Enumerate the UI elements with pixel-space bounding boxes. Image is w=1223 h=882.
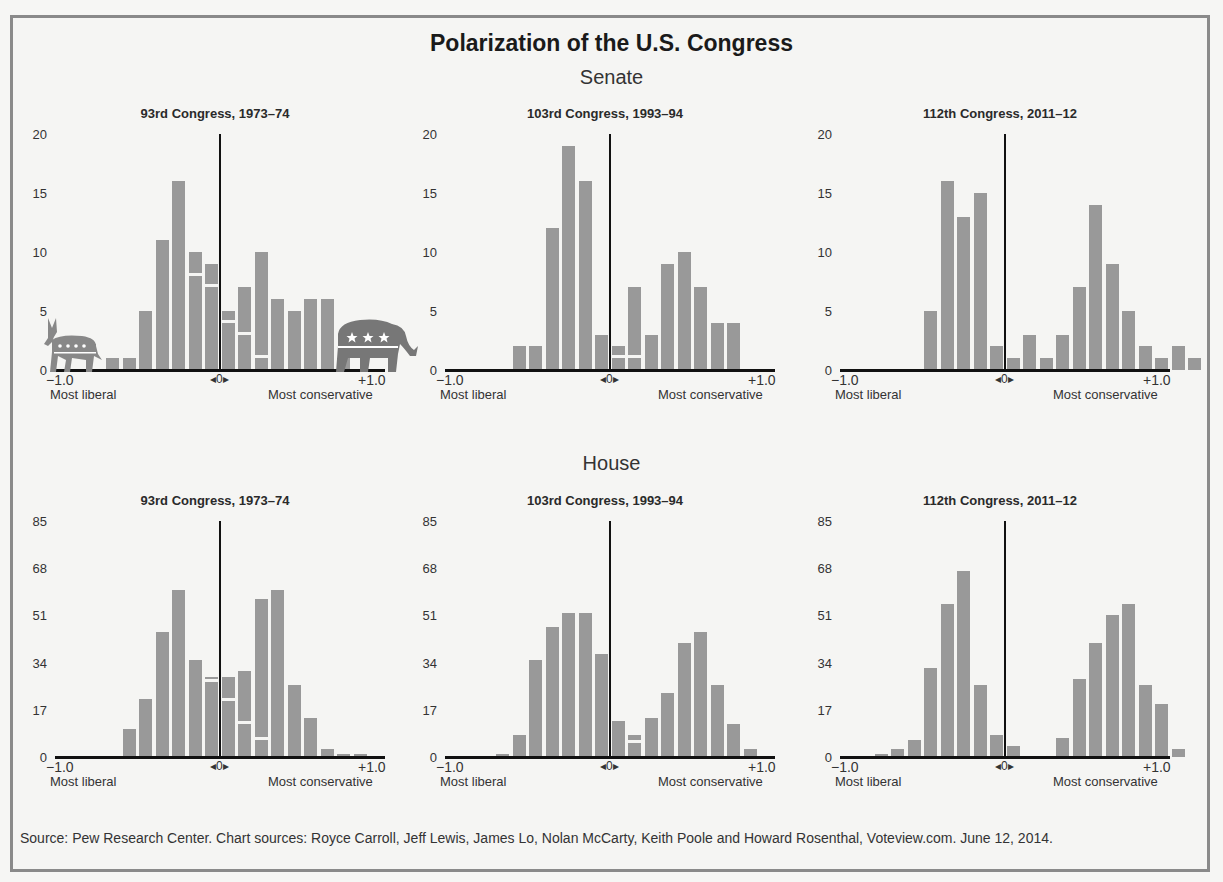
bar-segment-democrat — [255, 740, 268, 757]
histogram-bar — [288, 685, 301, 757]
bar-segment-republican — [1155, 704, 1168, 757]
histogram-bar — [189, 252, 202, 370]
histogram-bar — [957, 571, 970, 757]
histogram-bar — [645, 718, 658, 757]
bar-segment-republican — [1172, 346, 1185, 370]
histogram-bar — [255, 252, 268, 370]
bar-segment-democrat — [546, 228, 559, 370]
bar-segment-republican — [255, 252, 268, 355]
bar-segment-democrat — [123, 729, 136, 757]
bar-segment-democrat — [974, 685, 987, 757]
bar-segment-democrat — [238, 724, 251, 757]
histogram-bar — [579, 613, 592, 757]
bar-segment-democrat — [628, 743, 641, 757]
bar-segment-republican — [1122, 604, 1135, 757]
bar-segment-democrat — [189, 660, 202, 757]
x-tick-max: +1.0 — [358, 372, 386, 388]
x-label-liberal: Most liberal — [835, 774, 901, 789]
bar-segment-democrat — [595, 654, 608, 757]
y-tick-label: 0 — [415, 750, 437, 765]
bar-segment-republican — [711, 685, 724, 757]
histogram-bar — [1073, 287, 1086, 370]
panel-house-4: 103rd Congress, 1993–9401734516885−1.0◂0… — [420, 493, 790, 793]
histogram-bar — [990, 735, 1003, 757]
bar-segment-democrat — [139, 311, 152, 370]
bar-segment-democrat — [941, 604, 954, 757]
y-tick-label: 10 — [415, 245, 437, 260]
bar-segment-republican — [1106, 615, 1119, 757]
histogram-bar — [271, 299, 284, 370]
bar-segment-republican — [727, 724, 740, 757]
histogram-bar — [1172, 749, 1185, 757]
panel-title: 103rd Congress, 1993–94 — [420, 493, 790, 508]
panel-senate-1: 103rd Congress, 1993–9405101520−1.0◂0▸+1… — [420, 106, 790, 406]
histogram-bar — [612, 346, 625, 370]
x-tick-max: +1.0 — [748, 372, 776, 388]
y-tick-label: 51 — [810, 608, 832, 623]
bar-segment-democrat — [579, 613, 592, 757]
y-tick-label: 20 — [415, 127, 437, 142]
y-tick-label: 51 — [415, 608, 437, 623]
x-label-liberal: Most liberal — [50, 774, 116, 789]
bar-segment-republican — [1122, 311, 1135, 370]
histogram-bar — [189, 660, 202, 757]
bar-segment-republican — [205, 677, 218, 680]
bar-segment-republican — [205, 264, 218, 285]
bar-segment-democrat — [222, 323, 235, 370]
y-tick-label: 17 — [810, 702, 832, 717]
histogram-bar — [628, 287, 641, 370]
bar-segment-republican — [222, 677, 235, 699]
bar-segment-republican — [271, 590, 284, 757]
bar-segment-republican — [222, 311, 235, 320]
histogram-bar — [957, 217, 970, 370]
histogram-bar — [139, 311, 152, 370]
histogram-bar — [1106, 615, 1119, 757]
histogram-bar — [941, 181, 954, 370]
histogram-bar — [1188, 358, 1201, 370]
histogram-bar — [1056, 738, 1069, 757]
histogram-bar — [156, 632, 169, 757]
plot-area: 05101520 — [840, 134, 1170, 370]
histogram-bar — [546, 228, 559, 370]
bar-segment-democrat — [172, 181, 185, 370]
bar-segment-republican — [304, 718, 317, 757]
bar-segment-republican — [288, 685, 301, 757]
histogram-bar — [172, 590, 185, 757]
x-tick-center: ◂0▸ — [600, 372, 619, 386]
x-tick-center: ◂0▸ — [995, 372, 1014, 386]
panel-title: 112th Congress, 2011–12 — [815, 493, 1185, 508]
x-tick-min: −1.0 — [436, 759, 464, 775]
histogram-bar — [529, 660, 542, 757]
histogram-bar — [595, 335, 608, 370]
bar-segment-democrat — [513, 346, 526, 370]
y-tick-label: 5 — [810, 304, 832, 319]
y-tick-label: 0 — [810, 750, 832, 765]
x-tick-min: −1.0 — [831, 759, 859, 775]
histogram-bar — [661, 264, 674, 370]
bar-segment-republican — [238, 671, 251, 721]
histogram-bar — [172, 181, 185, 370]
x-label-liberal: Most liberal — [835, 387, 901, 402]
bar-segment-republican — [1056, 335, 1069, 370]
bar-segment-democrat — [513, 735, 526, 757]
elephant-icon — [330, 316, 420, 374]
center-axis-line — [1004, 134, 1006, 370]
bar-segment-republican — [1188, 358, 1201, 370]
x-label-conservative: Most conservative — [658, 774, 763, 789]
bar-segment-republican — [645, 718, 658, 757]
y-tick-label: 15 — [25, 186, 47, 201]
center-axis-line — [609, 134, 611, 370]
bar-segment-democrat — [595, 335, 608, 370]
x-label-liberal: Most liberal — [50, 387, 116, 402]
bar-segment-republican — [1089, 643, 1102, 757]
plot-area: 01734516885 — [55, 521, 385, 757]
bar-segment-republican — [1089, 205, 1102, 370]
y-tick-label: 0 — [810, 363, 832, 378]
y-tick-label: 10 — [25, 245, 47, 260]
x-label-liberal: Most liberal — [440, 774, 506, 789]
histogram-bar — [595, 654, 608, 757]
bar-segment-republican — [1139, 685, 1152, 757]
bar-segment-democrat — [924, 668, 937, 757]
histogram-bar — [546, 627, 559, 757]
bar-segment-republican — [678, 252, 691, 370]
